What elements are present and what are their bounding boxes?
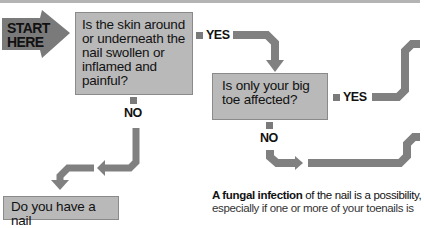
no-marker-1 bbox=[130, 97, 137, 104]
conclusion-text: A fungal infection of the nail is a poss… bbox=[212, 189, 424, 215]
start-line-1: START bbox=[7, 21, 50, 35]
yes-marker-2 bbox=[333, 94, 340, 101]
question-3-text: Do you have a nail bbox=[11, 199, 95, 228]
yes-arrow-2 bbox=[372, 44, 420, 97]
conclusion-bold: A fungal infection bbox=[212, 189, 302, 201]
start-label: START HERE bbox=[7, 21, 50, 49]
question-box-2: Is only your big toe affected? bbox=[212, 73, 328, 120]
no-arrow-2 bbox=[270, 150, 296, 163]
yes-arrow-1 bbox=[233, 35, 275, 62]
question-box-3: Do you have a nail bbox=[3, 196, 119, 220]
yes-label-2: YES bbox=[343, 90, 367, 104]
yes-marker-1 bbox=[196, 32, 203, 39]
conclusion-rest: of the nail is a possibility, bbox=[302, 189, 421, 201]
yes-label-1: YES bbox=[206, 28, 230, 42]
no-label-1: NO bbox=[124, 106, 142, 120]
start-line-2: HERE bbox=[7, 35, 50, 49]
no-marker-2 bbox=[266, 122, 273, 129]
question-box-1: Is the skin around or underneath the nai… bbox=[75, 12, 193, 95]
no-arrow-1 bbox=[103, 128, 136, 168]
conclusion-line-2: especially if one or more of your toenai… bbox=[212, 202, 414, 214]
question-1-text: Is the skin around or underneath the nai… bbox=[82, 17, 185, 88]
no-arrow-2b bbox=[308, 137, 420, 163]
question-2-text: Is only your big toe affected? bbox=[222, 78, 310, 107]
no-label-2: NO bbox=[260, 131, 278, 145]
